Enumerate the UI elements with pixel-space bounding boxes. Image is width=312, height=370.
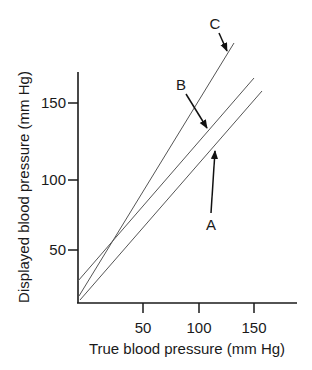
arrow-a <box>211 151 215 213</box>
series-line-a <box>80 91 262 300</box>
chart-canvas: 150 100 50 50 100 150 True blood pressur… <box>0 0 312 370</box>
y-tick-150: 150 <box>41 94 66 111</box>
arrow-c <box>219 33 227 51</box>
x-axis-title: True blood pressure (mm Hg) <box>89 340 285 357</box>
y-tick-50: 50 <box>49 241 66 258</box>
y-axis-title: Displayed blood pressure (mm Hg) <box>15 71 32 303</box>
y-tick-100: 100 <box>41 171 66 188</box>
series-line-c <box>79 43 234 296</box>
label-a: A <box>206 216 216 233</box>
x-tick-150: 150 <box>241 319 266 336</box>
series-line-b <box>78 78 254 281</box>
y-ticks: 150 100 50 <box>41 94 78 258</box>
x-tick-100: 100 <box>186 319 211 336</box>
x-tick-50: 50 <box>135 319 152 336</box>
x-ticks: 50 100 150 <box>135 303 267 336</box>
arrow-b <box>186 94 207 128</box>
label-c: C <box>210 15 221 32</box>
label-b: B <box>176 76 186 93</box>
